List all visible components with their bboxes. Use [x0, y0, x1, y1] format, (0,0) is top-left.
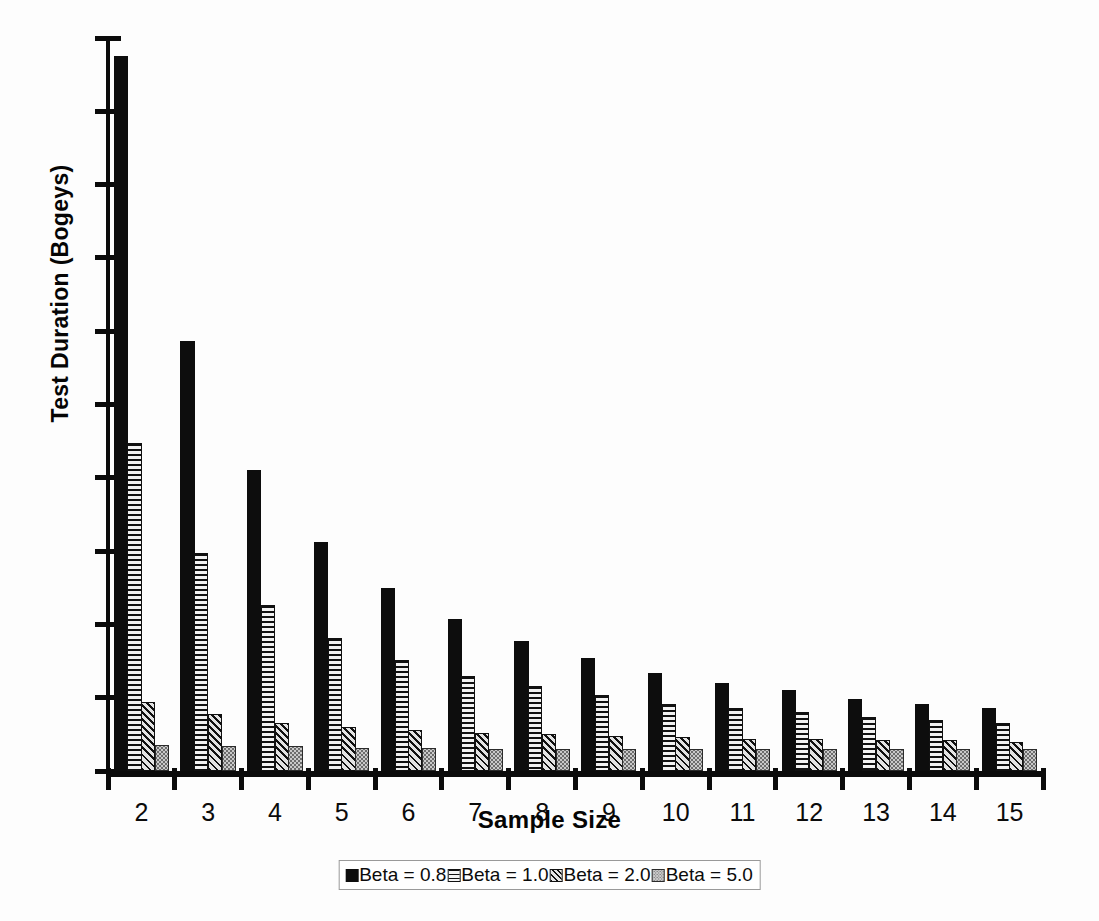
x-axis-tick	[640, 768, 645, 790]
y-axis-tick	[95, 36, 121, 41]
bar	[595, 695, 609, 771]
legend-swatch-icon	[345, 869, 358, 882]
bar	[742, 739, 756, 771]
bar	[222, 746, 236, 771]
bar	[489, 749, 503, 771]
bar	[141, 702, 155, 771]
bar	[581, 658, 595, 771]
x-axis-tick	[439, 768, 444, 790]
bar	[275, 723, 289, 771]
x-axis-tick	[373, 768, 378, 790]
x-axis-tick	[239, 768, 244, 790]
chart-legend: Beta = 0.8Beta = 1.0Beta = 2.0Beta = 5.0	[338, 860, 761, 890]
bar	[355, 748, 369, 771]
legend-label: Beta = 2.0	[564, 864, 652, 886]
bar	[675, 737, 689, 771]
x-axis-tick	[306, 768, 311, 790]
bar	[247, 470, 261, 771]
bar	[648, 673, 662, 771]
bar	[876, 740, 890, 771]
bar	[542, 734, 556, 771]
bar	[381, 588, 395, 771]
legend-item: Beta = 0.8	[345, 864, 447, 886]
bar	[915, 704, 929, 771]
bar	[114, 56, 128, 771]
bar	[461, 676, 475, 771]
bar	[180, 341, 194, 771]
bar	[395, 660, 409, 771]
bar	[929, 720, 943, 771]
bar	[689, 749, 703, 771]
bar	[1023, 749, 1037, 771]
bar	[514, 641, 528, 771]
bar	[341, 727, 355, 771]
bar	[288, 746, 302, 771]
bar	[782, 690, 796, 771]
legend-label: Beta = 0.8	[359, 864, 447, 886]
bar	[408, 730, 422, 771]
x-axis-tick	[907, 768, 912, 790]
bar	[194, 553, 208, 771]
x-axis-title: Sample Size	[0, 806, 1099, 834]
x-axis-tick	[1041, 768, 1046, 790]
bar	[528, 686, 542, 771]
bar	[208, 714, 222, 771]
legend-label: Beta = 1.0	[461, 864, 549, 886]
x-axis-tick	[172, 768, 177, 790]
x-axis-tick	[840, 768, 845, 790]
legend-swatch-icon	[550, 869, 563, 882]
bar	[1009, 742, 1023, 771]
x-axis-tick	[106, 768, 111, 790]
x-axis-tick	[573, 768, 578, 790]
bar	[956, 749, 970, 771]
bar	[556, 749, 570, 771]
bar	[662, 704, 676, 771]
bar	[795, 712, 809, 771]
legend-item: Beta = 2.0	[550, 864, 652, 886]
bar	[823, 749, 837, 771]
bar	[155, 745, 169, 771]
bar	[982, 708, 996, 771]
x-axis-tick	[506, 768, 511, 790]
x-axis-tick	[707, 768, 712, 790]
legend-swatch-icon	[652, 869, 665, 882]
bar	[809, 739, 823, 771]
bar	[422, 748, 436, 771]
bar	[943, 740, 957, 771]
bar	[609, 736, 623, 771]
bar	[622, 749, 636, 771]
bar	[127, 443, 141, 771]
y-axis-title: Test Duration (Bogeys)	[47, 84, 74, 504]
bar	[848, 699, 862, 771]
chart-page: Test Duration (Bogeys) 05101520253035404…	[0, 0, 1099, 921]
legend-swatch-icon	[447, 869, 460, 882]
x-axis-tick	[974, 768, 979, 790]
plot-area: 05101520253035404550 2345678910111213141…	[108, 38, 1043, 771]
bar	[715, 683, 729, 771]
bar	[756, 749, 770, 771]
bar	[862, 717, 876, 771]
bar	[996, 723, 1010, 771]
bar	[475, 733, 489, 771]
legend-label: Beta = 5.0	[666, 864, 754, 886]
bar	[889, 749, 903, 771]
bar	[314, 542, 328, 771]
bar	[728, 708, 742, 771]
legend-item: Beta = 5.0	[652, 864, 754, 886]
x-axis-tick	[773, 768, 778, 790]
bar	[448, 619, 462, 771]
legend-item: Beta = 1.0	[447, 864, 549, 886]
bar	[328, 638, 342, 771]
bar	[261, 605, 275, 771]
